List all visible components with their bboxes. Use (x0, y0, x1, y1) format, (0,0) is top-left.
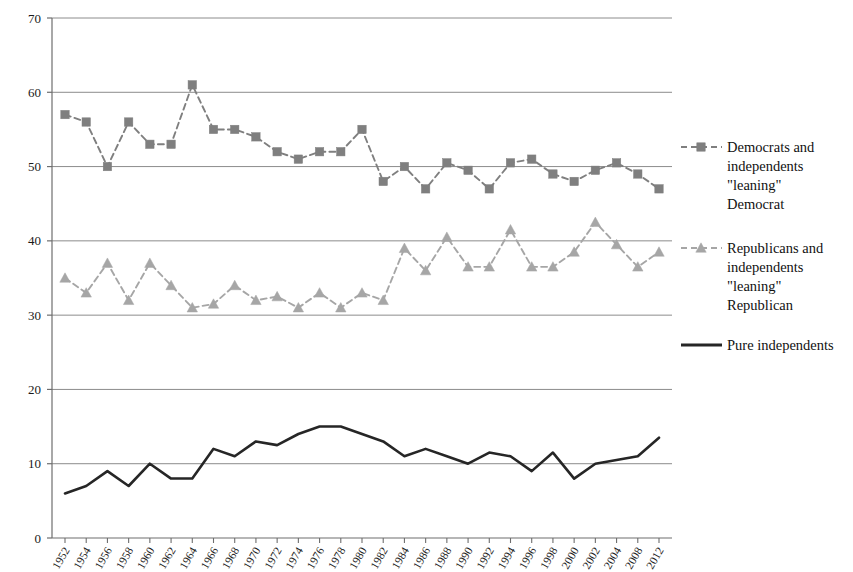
x-tick-label-1990: 1990 (453, 545, 475, 571)
series-democrats (61, 81, 663, 193)
legend-label-line: independents (727, 259, 804, 275)
data-point-1952 (61, 110, 69, 118)
x-tick-label-1994: 1994 (495, 545, 517, 571)
data-point-2000 (570, 177, 578, 185)
data-point-1956 (102, 258, 112, 267)
x-tick-label-1986: 1986 (410, 545, 432, 571)
data-point-1970 (252, 133, 260, 141)
data-point-1970 (251, 295, 261, 304)
data-point-2012 (655, 185, 663, 193)
x-tick-label-1998: 1998 (538, 545, 560, 571)
legend-label-line: "leaning" (727, 278, 782, 294)
x-tick-label-1976: 1976 (304, 545, 326, 571)
x-tick-label-1992: 1992 (474, 545, 496, 571)
y-axis-tick-labels: 010203040506070 (28, 11, 52, 546)
data-point-1996 (528, 155, 536, 163)
x-tick-label-1958: 1958 (113, 545, 135, 571)
data-point-1972 (272, 291, 282, 300)
data-point-2008 (634, 170, 642, 178)
legend-label-line: "leaning" (727, 177, 782, 193)
x-tick-label-1988: 1988 (432, 545, 454, 571)
data-point-2012 (654, 247, 664, 256)
data-point-1988 (442, 232, 452, 241)
x-tick-label-1966: 1966 (198, 545, 220, 571)
x-tick-label-1956: 1956 (92, 545, 114, 571)
series-republicans (60, 217, 664, 312)
x-tick-label-1960: 1960 (135, 545, 157, 571)
x-tick-label-1954: 1954 (71, 545, 93, 571)
legend-entry-democrats[interactable]: Democrats andindependents"leaning"Democr… (681, 139, 815, 212)
y-tick-label-70: 70 (28, 11, 41, 26)
data-point-1992 (485, 185, 493, 193)
data-point-1984 (400, 162, 408, 170)
x-tick-label-1962: 1962 (156, 545, 178, 571)
legend-label-line: Republican (727, 297, 794, 313)
x-tick-label-1982: 1982 (368, 545, 390, 571)
legend-swatch-square-marker (697, 143, 705, 151)
x-tick-label-1968: 1968 (220, 545, 242, 571)
x-tick-label-2008: 2008 (623, 545, 645, 571)
data-point-2002 (590, 217, 600, 226)
data-point-1986 (421, 185, 429, 193)
x-tick-label-1964: 1964 (177, 545, 199, 571)
y-tick-label-40: 40 (28, 233, 41, 248)
data-point-1974 (294, 155, 302, 163)
x-tick-label-2004: 2004 (601, 545, 623, 571)
x-tick-label-1996: 1996 (517, 545, 539, 571)
y-tick-label-10: 10 (28, 456, 41, 471)
data-point-1998 (549, 170, 557, 178)
data-point-1976 (314, 288, 324, 297)
series-pure-independents (65, 427, 659, 494)
data-point-1966 (209, 125, 217, 133)
data-point-1968 (231, 125, 239, 133)
x-tick-label-1972: 1972 (262, 545, 284, 571)
data-point-1998 (548, 262, 558, 271)
legend-label-line: independents (727, 158, 804, 174)
data-series-layer (60, 81, 664, 494)
data-point-2004 (612, 159, 620, 167)
legend-label-line: Pure independents (727, 337, 834, 353)
gridlines-group (52, 18, 672, 464)
data-point-1984 (399, 243, 409, 252)
x-tick-label-2012: 2012 (644, 545, 666, 571)
legend-entry-pure-independents[interactable]: Pure independents (681, 337, 834, 353)
chart-container: 010203040506070 195219541956195819601962… (0, 0, 853, 572)
data-point-1976 (315, 148, 323, 156)
x-tick-label-1980: 1980 (347, 545, 369, 571)
legend-label-line: Democrat (727, 196, 784, 212)
data-point-1952 (60, 273, 70, 282)
data-point-1988 (443, 159, 451, 167)
line-chart: 010203040506070 195219541956195819601962… (0, 0, 853, 572)
y-tick-label-60: 60 (28, 85, 41, 100)
data-point-1978 (336, 303, 346, 312)
data-point-1994 (506, 159, 514, 167)
data-point-1980 (357, 288, 367, 297)
data-point-1982 (378, 295, 388, 304)
x-tick-label-1974: 1974 (283, 545, 305, 571)
data-point-1962 (167, 140, 175, 148)
x-tick-label-2000: 2000 (559, 545, 581, 571)
x-tick-label-2002: 2002 (580, 545, 602, 571)
x-tick-label-1952: 1952 (50, 545, 72, 571)
series-line (65, 85, 659, 189)
data-point-1990 (464, 166, 472, 174)
y-tick-label-0: 0 (35, 531, 42, 546)
data-point-1980 (358, 125, 366, 133)
data-point-2002 (591, 166, 599, 174)
data-point-1994 (505, 225, 515, 234)
y-tick-label-50: 50 (28, 159, 41, 174)
data-point-1958 (124, 118, 132, 126)
data-point-1968 (230, 280, 240, 289)
x-tick-label-1984: 1984 (389, 545, 411, 571)
data-point-1972 (273, 148, 281, 156)
y-tick-label-30: 30 (28, 308, 41, 323)
data-point-1956 (103, 162, 111, 170)
data-point-1978 (337, 148, 345, 156)
legend-entry-republicans[interactable]: Republicans andindependents"leaning"Repu… (681, 240, 824, 313)
x-axis-ticks (65, 538, 659, 543)
y-tick-label-20: 20 (28, 382, 41, 397)
data-point-1960 (146, 140, 154, 148)
data-point-1982 (379, 177, 387, 185)
data-point-1954 (82, 118, 90, 126)
data-point-1958 (123, 295, 133, 304)
